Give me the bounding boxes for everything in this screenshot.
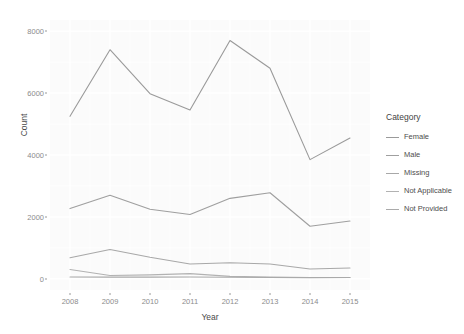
x-tick-label: 2010 — [142, 297, 159, 306]
legend-title: Category — [386, 112, 464, 122]
legend-line-icon — [386, 149, 399, 160]
legend-item-not-applicable[interactable]: Not Applicable — [386, 183, 464, 198]
x-tick-mark — [350, 293, 351, 295]
legend-item-label: Missing — [404, 168, 429, 177]
y-tick-label: 0 — [40, 274, 44, 283]
x-tick-mark — [110, 293, 111, 295]
x-tick-mark — [230, 293, 231, 295]
legend-line-icon — [386, 185, 399, 196]
y-tick-mark — [45, 93, 47, 94]
y-tick-mark — [45, 155, 47, 156]
legend-line-icon — [386, 131, 399, 142]
y-tick-label: 4000 — [27, 151, 44, 160]
legend-item-not-provided[interactable]: Not Provided — [386, 201, 464, 216]
y-tick-mark — [45, 216, 47, 217]
legend-item-label: Not Applicable — [404, 186, 452, 195]
x-tick-mark — [270, 293, 271, 295]
x-tick-mark — [310, 293, 311, 295]
legend-items: FemaleMaleMissingNot ApplicableNot Provi… — [386, 129, 464, 216]
chart-figure: Count 02000400060008000 2008200920102011… — [0, 0, 464, 334]
y-tick-label: 2000 — [27, 212, 44, 221]
y-axis-ticks: 02000400060008000 — [0, 20, 44, 290]
legend-item-label: Male — [404, 150, 420, 159]
x-tick-label: 2008 — [62, 297, 79, 306]
x-axis-ticks: 20082009201020112012201320142015 — [50, 297, 370, 311]
plot-panel — [50, 20, 370, 290]
y-tick-label: 6000 — [27, 89, 44, 98]
x-tick-label: 2011 — [182, 297, 198, 306]
x-tick-mark — [190, 293, 191, 295]
legend-item-label: Not Provided — [404, 204, 447, 213]
legend-item-missing[interactable]: Missing — [386, 165, 464, 180]
legend-item-label: Female — [404, 132, 429, 141]
x-tick-label: 2014 — [302, 297, 319, 306]
legend-line-icon — [386, 203, 399, 214]
y-tick-mark — [45, 31, 47, 32]
x-tick-mark — [150, 293, 151, 295]
x-tick-mark — [70, 293, 71, 295]
x-axis-label: Year — [50, 312, 370, 322]
x-tick-label: 2009 — [102, 297, 119, 306]
legend: Category FemaleMaleMissingNot Applicable… — [386, 112, 464, 219]
legend-item-male[interactable]: Male — [386, 147, 464, 162]
legend-line-icon — [386, 167, 399, 178]
y-tick-label: 8000 — [27, 27, 44, 36]
y-tick-mark — [45, 278, 47, 279]
plot-lines — [50, 20, 370, 290]
x-tick-label: 2013 — [262, 297, 279, 306]
legend-item-female[interactable]: Female — [386, 129, 464, 144]
x-tick-label: 2015 — [342, 297, 359, 306]
x-tick-label: 2012 — [222, 297, 239, 306]
